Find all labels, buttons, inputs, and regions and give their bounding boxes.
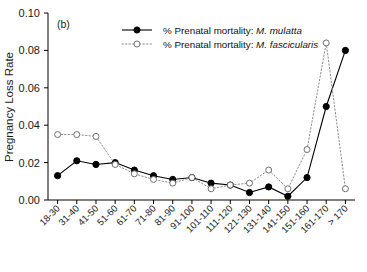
y-tick-label: 0.08 — [19, 44, 40, 56]
x-tick-label: 18-30 — [37, 203, 62, 228]
data-point — [304, 174, 310, 180]
y-tick-group — [44, 13, 48, 200]
y-tick-label-group: 0.000.020.040.060.080.10 — [19, 7, 40, 206]
data-point — [266, 184, 272, 190]
data-point — [112, 161, 118, 167]
data-point — [304, 147, 310, 153]
x-axis: 18-3031-4041-5051-6061-7071-8081-9091-10… — [37, 200, 355, 235]
x-tick-label-group: 18-3031-4041-5051-6061-7071-8081-9091-10… — [37, 203, 350, 235]
chart-legend: % Prenatal mortality: M. mulatta% Prenat… — [122, 25, 318, 50]
data-point — [342, 186, 348, 192]
panel-label: (b) — [57, 18, 70, 30]
legend-label-0: % Prenatal mortality: M. mulatta — [163, 25, 302, 36]
data-point — [323, 40, 329, 46]
data-point — [266, 167, 272, 173]
data-point — [208, 186, 214, 192]
y-tick-label: 0.06 — [19, 82, 40, 94]
pregnancy-loss-rate-line-chart: 0.000.020.040.060.080.10 18-3031-4041-50… — [0, 0, 367, 272]
data-point — [93, 161, 99, 167]
data-point — [227, 182, 233, 188]
series-line — [58, 43, 346, 189]
y-axis: 0.000.020.040.060.080.10 — [19, 7, 48, 206]
data-point — [342, 47, 348, 53]
data-point — [54, 173, 60, 179]
x-tick-label: 41-50 — [75, 203, 100, 228]
data-point — [170, 180, 176, 186]
data-point — [55, 132, 61, 138]
data-point — [151, 176, 157, 182]
data-point — [246, 180, 252, 186]
y-tick-label: 0.02 — [19, 157, 40, 169]
y-axis-title: Pregnancy Loss Rate — [3, 52, 15, 162]
x-tick-label: 31-40 — [56, 203, 81, 228]
y-tick-label: 0.00 — [19, 194, 40, 206]
series-line — [58, 50, 346, 196]
x-tick-label: 51-60 — [95, 203, 120, 228]
data-point — [189, 175, 195, 181]
series-fascicularis — [55, 40, 349, 192]
data-point — [285, 193, 291, 199]
series-mulatta — [54, 47, 348, 199]
data-point — [246, 189, 252, 195]
y-tick-label: 0.04 — [19, 119, 40, 131]
legend-marker-1 — [134, 41, 140, 47]
data-point — [131, 171, 137, 177]
data-point — [93, 133, 99, 139]
data-point — [74, 132, 80, 138]
x-tick-label: 71-80 — [133, 203, 158, 228]
x-tick-label: > 170 — [325, 203, 350, 228]
plot-area — [54, 40, 348, 199]
y-tick-label: 0.10 — [19, 7, 40, 19]
x-tick-label: 61-70 — [114, 203, 139, 228]
legend-marker-0 — [134, 27, 140, 33]
data-point — [323, 103, 329, 109]
legend-label-1: % Prenatal mortality: M. fascicularis — [163, 39, 318, 50]
data-point — [74, 158, 80, 164]
data-point — [285, 186, 291, 192]
chart-figure: 0.000.020.040.060.080.10 18-3031-4041-50… — [0, 0, 367, 272]
